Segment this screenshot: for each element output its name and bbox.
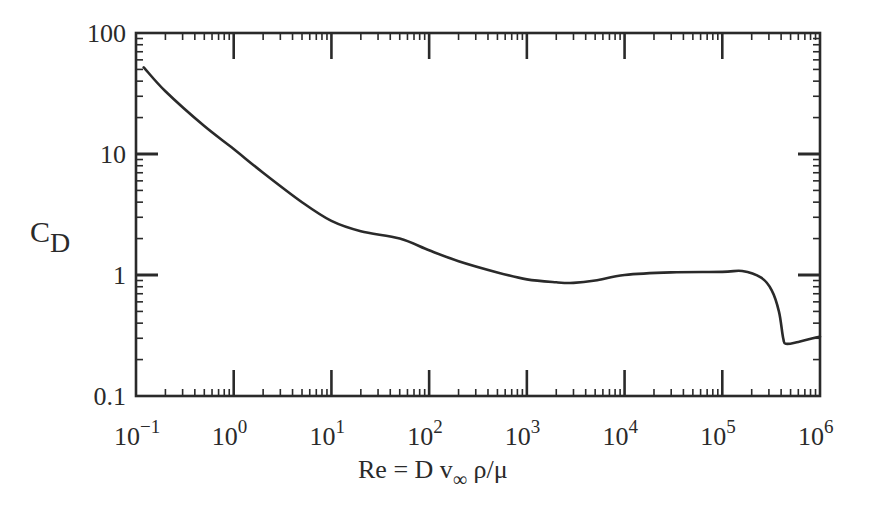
x-tick-labels: 10−1100101102103104105106 — [114, 416, 834, 451]
axis-ticks — [136, 33, 820, 396]
x-tick-label: 101 — [309, 416, 345, 451]
y-tick-label: 0.1 — [94, 382, 127, 411]
y-axis-label: CD — [30, 215, 70, 258]
x-tick-label: 100 — [212, 416, 248, 451]
x-axis-label: Re = D v∞ ρ/μ — [358, 455, 508, 490]
y-tick-label: 100 — [87, 19, 126, 48]
x-tick-label: 103 — [505, 416, 541, 451]
x-tick-label: 10−1 — [114, 416, 160, 451]
x-tick-label: 104 — [603, 416, 639, 451]
x-tick-label: 105 — [700, 416, 736, 451]
plot-frame — [136, 33, 820, 396]
x-tick-label: 102 — [407, 416, 443, 451]
drag-curve — [144, 67, 820, 344]
y-tick-label: 1 — [113, 261, 126, 290]
y-tick-label: 10 — [100, 140, 126, 169]
drag-coefficient-chart: 1001010.1 10−1100101102103104105106 CD R… — [0, 0, 875, 512]
x-tick-label: 106 — [798, 416, 834, 451]
y-tick-labels: 1001010.1 — [87, 19, 126, 411]
